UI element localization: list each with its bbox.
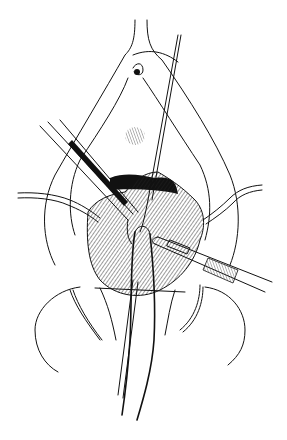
suture-needle <box>118 280 138 398</box>
illustration-canvas <box>0 0 287 440</box>
thigh-outlines <box>35 285 245 372</box>
surgical-illustration <box>0 0 287 440</box>
tissue-mass <box>87 172 203 295</box>
right-retractor <box>203 185 262 224</box>
